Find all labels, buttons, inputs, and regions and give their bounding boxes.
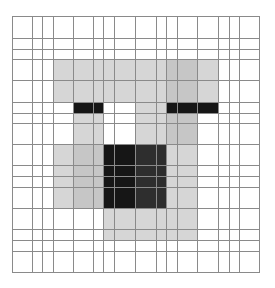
grid-cell (156, 80, 166, 102)
grid-cell (156, 208, 166, 229)
grid-cell (53, 144, 73, 165)
grid-cell (93, 80, 103, 102)
grid-cell (93, 165, 103, 176)
grid-cell (73, 176, 93, 187)
grid-cell (177, 187, 197, 208)
grid-cell (177, 102, 197, 113)
grid-line-horizontal (12, 113, 260, 114)
grid-cell (103, 187, 114, 208)
grid-cell (156, 187, 166, 208)
grid-cell (73, 102, 93, 113)
grid-cell (135, 229, 156, 240)
grid-cell (114, 208, 135, 229)
grid-line-horizontal (12, 176, 260, 177)
grid-cell (166, 59, 177, 80)
grid-cell (135, 80, 156, 102)
grid-cell (93, 176, 103, 187)
grid-cell (114, 165, 135, 176)
grid-line-horizontal (12, 229, 260, 230)
grid-line-horizontal (12, 16, 260, 17)
grid-cell (53, 59, 73, 80)
grid-line-horizontal (12, 38, 260, 39)
grid-cell (103, 176, 114, 187)
grid-cell (53, 165, 73, 176)
grid-cell (73, 123, 93, 144)
grid-line-horizontal (12, 251, 260, 252)
grid-cell (166, 80, 177, 102)
grid-cell (135, 102, 156, 113)
grid-cell (166, 123, 177, 144)
grid-cell (156, 165, 166, 176)
grid-cell (135, 187, 156, 208)
grid-cell (93, 59, 103, 80)
grid-line-horizontal (12, 165, 260, 166)
grid-cell (103, 208, 114, 229)
grid-cell (135, 123, 156, 144)
grid-cell (177, 123, 197, 144)
grid-cell (166, 165, 177, 176)
grid-cell (135, 176, 156, 187)
grid-cell (156, 102, 166, 113)
grid-cell (166, 208, 177, 229)
grid-cell (197, 102, 218, 113)
grid-cell (103, 59, 114, 80)
grid-cell (156, 113, 166, 123)
grid-cell (93, 102, 103, 113)
grid-cell (73, 187, 93, 208)
grid-cell (93, 123, 103, 144)
grid-cell (177, 113, 197, 123)
grid-line-horizontal (12, 102, 260, 103)
grid-cell (103, 144, 114, 165)
grid-line-horizontal (12, 59, 260, 60)
grid-line-horizontal (12, 123, 260, 124)
grid-cell (73, 80, 93, 102)
grid-cell (197, 59, 218, 80)
grid-cell (114, 187, 135, 208)
grid-cell (93, 144, 103, 165)
grid-cell (166, 187, 177, 208)
grid-cell (53, 80, 73, 102)
grid-cell (177, 176, 197, 187)
grid-cell (177, 80, 197, 102)
grid-cell (103, 165, 114, 176)
grid-cell (73, 144, 93, 165)
grid-cell (156, 229, 166, 240)
grid-cell (114, 80, 135, 102)
grid-line-horizontal (12, 272, 260, 273)
grid-line-horizontal (12, 49, 260, 50)
grid-cell (166, 102, 177, 113)
grid-line-horizontal (12, 144, 260, 145)
grid-cell (53, 176, 73, 187)
grid-cell (177, 208, 197, 229)
grid-cell (73, 165, 93, 176)
grid-cell (93, 113, 103, 123)
grid-cell (53, 187, 73, 208)
grid-cell (103, 229, 114, 240)
pixel-grid (0, 0, 275, 288)
grid-cell (73, 59, 93, 80)
grid-cell (156, 59, 166, 80)
grid-cell (135, 59, 156, 80)
grid-cell (166, 113, 177, 123)
grid-cell (135, 113, 156, 123)
grid-cell (197, 80, 218, 102)
grid-cell (156, 176, 166, 187)
grid-line-horizontal (12, 80, 260, 81)
grid-cell (156, 123, 166, 144)
grid-cell (156, 144, 166, 165)
grid-line-horizontal (12, 187, 260, 188)
grid-line-horizontal (12, 240, 260, 241)
grid-cell (93, 187, 103, 208)
grid-cell (177, 144, 197, 165)
grid-line-horizontal (12, 208, 260, 209)
grid-cell (135, 208, 156, 229)
grid-cell (166, 229, 177, 240)
grid-cell (135, 165, 156, 176)
grid-cell (177, 59, 197, 80)
grid-cell (166, 176, 177, 187)
grid-cell (114, 176, 135, 187)
grid-cell (166, 144, 177, 165)
grid-cell (73, 113, 93, 123)
grid-cell (114, 229, 135, 240)
grid-cell (135, 144, 156, 165)
